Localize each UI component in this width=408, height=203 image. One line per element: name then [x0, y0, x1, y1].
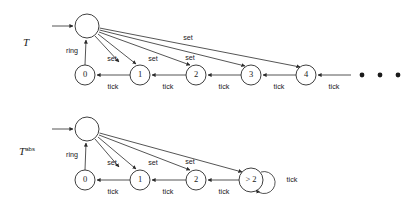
ellipsis-dot-2: [378, 73, 383, 78]
state-label-0-abstract: 0: [83, 174, 87, 184]
edge-label-tick-gt2-abstract: tick: [219, 187, 230, 196]
state-label-3-concrete: 3: [249, 69, 253, 79]
edge-ring-concrete: [85, 40, 86, 65]
edge-label-tick-2-concrete: tick: [163, 82, 174, 91]
edge-label-set-1-abstract: set: [148, 158, 158, 167]
state-label-gt2-abstract: > 2: [245, 174, 256, 184]
edge-label-tick-3-concrete: tick: [219, 82, 230, 91]
edge-label-tick-more-concrete: tick: [329, 82, 340, 91]
edge-label-tick-1-concrete: tick: [108, 82, 119, 91]
ellipsis-dot-3: [396, 73, 401, 78]
automaton-label-t-abs: Tabs: [19, 145, 35, 157]
edge-label-set-2-abstract: set: [185, 157, 195, 166]
state-label-0-concrete: 0: [83, 69, 87, 79]
automaton-abstract: Tabs 0 1 2 > 2 ring set set: [19, 117, 298, 196]
automaton-concrete: T 0 1 2 3 4 ring set set: [23, 14, 400, 91]
state-label-2-abstract: 2: [194, 174, 198, 184]
state-node-top-concrete: [75, 14, 99, 38]
ellipsis-dot-1: [360, 73, 365, 78]
edge-label-tick-1-abstract: tick: [108, 187, 119, 196]
automaton-label-t-abs-sup: abs: [25, 145, 35, 151]
state-node-top-abstract: [75, 117, 99, 141]
edge-label-tick-selfloop-abstract: tick: [287, 175, 298, 184]
edge-set-to-3-concrete: [100, 30, 246, 66]
state-label-1-concrete: 1: [138, 69, 142, 79]
edge-label-set-4-concrete: set: [183, 33, 193, 42]
edge-label-set-0-abstract: set: [107, 158, 117, 167]
edge-label-tick-2-abstract: tick: [163, 187, 174, 196]
automata-svg: T 0 1 2 3 4 ring set set: [0, 0, 408, 203]
edge-label-ring-concrete: ring: [66, 46, 78, 55]
edge-label-ring-abstract: ring: [66, 150, 78, 159]
edge-label-set-2-concrete: set: [185, 53, 195, 62]
edge-set-to-4-concrete: [100, 28, 301, 67]
automaton-label-t: T: [23, 36, 30, 48]
edge-label-set-1-concrete: set: [148, 54, 158, 63]
automata-figure: T 0 1 2 3 4 ring set set: [0, 0, 408, 203]
state-label-2-concrete: 2: [194, 69, 198, 79]
state-label-1-abstract: 1: [138, 174, 142, 184]
edge-set-to-gt2-abstract: [100, 133, 243, 172]
edge-ring-abstract: [85, 143, 86, 170]
edge-label-set-0-concrete: set: [107, 54, 117, 63]
edge-label-tick-4-concrete: tick: [274, 82, 285, 91]
